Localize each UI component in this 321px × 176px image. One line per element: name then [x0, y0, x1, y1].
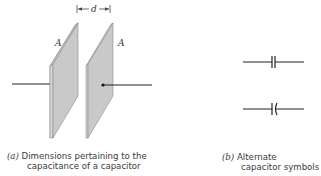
left-plate-area-label: A [54, 38, 62, 48]
parallel-plate-capacitor-symbol [243, 56, 304, 68]
caption-panel-a: (a) Dimensions pertaining to the capacit… [7, 151, 147, 171]
panel-b-symbols [243, 56, 304, 115]
panel-a-diagram: d A A [12, 4, 152, 138]
caption-a-line2: capacitance of a capacitor [7, 161, 147, 171]
separation-dimension: d [77, 4, 110, 14]
right-plate-area-label: A [117, 38, 125, 48]
curved-plate-capacitor-symbol [243, 103, 304, 115]
caption-b-line1: Alternate [237, 152, 277, 162]
right-plate [86, 23, 113, 138]
caption-a-line1: Dimensions pertaining to the [22, 151, 147, 161]
panel-a-label: (a) [7, 151, 19, 161]
caption-b-line2: capacitor symbols [222, 162, 319, 172]
caption-panel-b: (b) Alternate capacitor symbols [222, 152, 319, 172]
separation-label: d [91, 4, 97, 14]
capacitor-figure: d A A [0, 0, 321, 176]
panel-b-label: (b) [222, 152, 234, 162]
